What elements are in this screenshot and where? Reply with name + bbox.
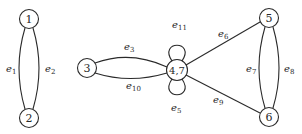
edge-labels: e1 e2 e3 e10 e11 e5 e6 e9 e7 e8 (6, 19, 294, 115)
svg-text:5: 5 (266, 12, 273, 25)
node-3: 3 (78, 59, 97, 78)
edge-label-e8: e8 (284, 63, 294, 76)
node-2: 2 (20, 109, 39, 128)
edges (19, 22, 279, 113)
edge-e10 (95, 73, 167, 79)
svg-text:4,7: 4,7 (169, 65, 185, 76)
graph-diagram: e1 e2 e3 e10 e11 e5 e6 e9 e7 e8 1 2 3 4,… (0, 0, 302, 134)
edge-e8 (273, 27, 279, 108)
nodes: 1 2 3 4,7 5 6 (20, 9, 279, 128)
node-1: 1 (20, 10, 39, 29)
svg-text:2: 2 (26, 112, 33, 125)
edge-label-e2: e2 (45, 63, 55, 76)
edge-label-e7: e7 (246, 63, 256, 76)
edge-label-e6: e6 (218, 28, 229, 41)
edge-e1 (19, 28, 25, 109)
edge-e7 (259, 27, 265, 108)
svg-text:6: 6 (266, 111, 273, 124)
edge-label-e3: e3 (124, 41, 134, 54)
node-4-7: 4,7 (167, 60, 188, 81)
node-6: 6 (260, 108, 279, 127)
edge-label-e11: e11 (172, 19, 187, 32)
edge-label-e5: e5 (171, 102, 181, 115)
edge-e11 (169, 45, 185, 61)
edge-e3 (95, 57, 167, 67)
edge-label-e10: e10 (126, 80, 141, 93)
node-5: 5 (260, 9, 279, 28)
edge-e5 (169, 79, 185, 95)
svg-text:1: 1 (26, 13, 33, 26)
edge-e9 (186, 75, 260, 113)
svg-text:3: 3 (84, 62, 91, 75)
edge-label-e1: e1 (6, 63, 16, 76)
edge-label-e9: e9 (213, 94, 223, 107)
edge-e2 (33, 28, 39, 109)
